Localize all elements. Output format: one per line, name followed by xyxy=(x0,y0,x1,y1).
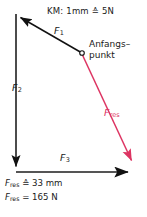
start-point-label-line1: Anfangs– xyxy=(89,39,130,50)
caption-2-rest: = 165 N xyxy=(19,192,57,202)
scale-note: KM: 1mm ≙ 5N xyxy=(47,7,114,16)
f3-subscript: 3 xyxy=(66,156,70,164)
caption-line-1: Fres ≙ 33 mm xyxy=(5,179,62,189)
vector-fres-label: Fres xyxy=(104,108,120,119)
caption-1-subscript: res xyxy=(10,181,19,188)
start-point-marker xyxy=(80,51,85,56)
f3-symbol: F xyxy=(60,152,65,163)
vector-f3-label: F3 xyxy=(60,153,70,164)
force-vector-diagram: KM: 1mm ≙ 5N Anfangs– punkt F1 F2 F3 Fre… xyxy=(0,0,147,217)
fres-subscript: res xyxy=(110,111,120,119)
f1-subscript: 1 xyxy=(60,29,64,37)
caption-1-rest: ≙ 33 mm xyxy=(19,178,62,188)
caption-line-2: Fres = 165 N xyxy=(5,193,58,203)
fres-symbol: F xyxy=(104,107,109,118)
caption-2-subscript: res xyxy=(10,195,19,202)
f1-symbol: F xyxy=(54,25,59,36)
vector-f1-arrow xyxy=(21,18,83,54)
f2-subscript: 2 xyxy=(18,86,22,94)
start-point-label-line2: punkt xyxy=(89,50,130,61)
f2-symbol: F xyxy=(12,82,17,93)
vector-f1-label: F1 xyxy=(54,26,64,37)
vector-f2-label: F2 xyxy=(12,83,22,94)
start-point-label: Anfangs– punkt xyxy=(89,39,130,62)
